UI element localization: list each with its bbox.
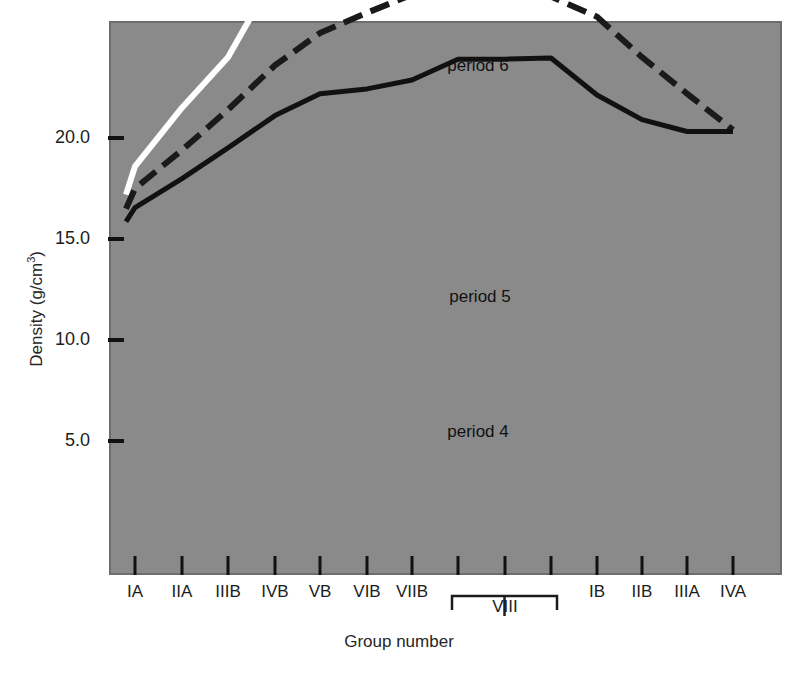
x-tick-label-IVB: IVB [261,582,288,602]
y-tick-label-10: 10.0 [30,329,90,350]
plot-canvas [0,0,798,677]
x-tick-label-IA: IA [127,582,143,602]
y-axis-title-exponent: 3 [25,257,37,263]
x-tick-label-IVA: IVA [720,582,746,602]
y-axis-title-close: ) [27,251,46,257]
plot-background [110,22,781,574]
series-label-period-5: period 5 [449,287,510,307]
x-tick-label-VIB: VIB [353,582,380,602]
y-tick-label-15: 15.0 [30,228,90,249]
y-axis-title-text: Density (g/cm [27,263,46,367]
x-tick-label-viii: VIII [492,597,518,617]
x-tick-label-IB: IB [589,582,605,602]
series-label-period-6: period 6 [447,56,508,76]
y-tick-label-20: 20.0 [30,127,90,148]
series-label-period-4: period 4 [447,422,508,442]
y-tick-label-5: 5.0 [30,430,90,451]
x-tick-label-IIA: IIA [172,582,193,602]
x-tick-label-IIIA: IIIA [674,582,700,602]
chart-figure: Density (g/cm3) 20.0 15.0 10.0 5.0 IAIIA… [0,0,798,677]
x-axis-title: Group number [0,632,798,652]
x-tick-label-VIIB: VIIB [396,582,428,602]
x-tick-label-IIB: IIB [632,582,653,602]
x-tick-label-VB: VB [309,582,332,602]
x-tick-label-IIIB: IIIB [215,582,241,602]
